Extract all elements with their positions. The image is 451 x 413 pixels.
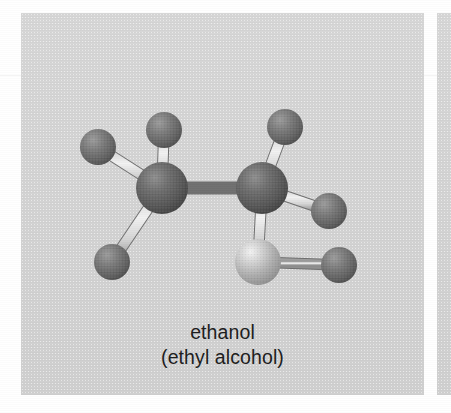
caption-line-molecule-name: ethanol [21, 320, 424, 345]
bond-group [98, 127, 339, 265]
atom-hydrogen-h2 [146, 112, 182, 148]
atom-hydrogen-h6 [321, 247, 357, 283]
atom-hydrogen-h3 [94, 244, 130, 280]
figure-page: ethanol (ethyl alcohol) [0, 0, 451, 413]
caption-line-molecule-synonym: (ethyl alcohol) [21, 345, 424, 370]
figure-caption: ethanol (ethyl alcohol) [21, 320, 424, 370]
ethanol-figure-panel: ethanol (ethyl alcohol) [21, 13, 424, 395]
atom-carbon-c1 [136, 162, 188, 214]
adjacent-figure-panel [437, 13, 451, 395]
atom-carbon-c2 [236, 162, 288, 214]
atom-oxygen-o1 [235, 239, 281, 285]
atom-hydrogen-h5 [311, 193, 347, 229]
atom-hydrogen-h1 [80, 129, 116, 165]
atom-hydrogen-h4 [267, 109, 303, 145]
